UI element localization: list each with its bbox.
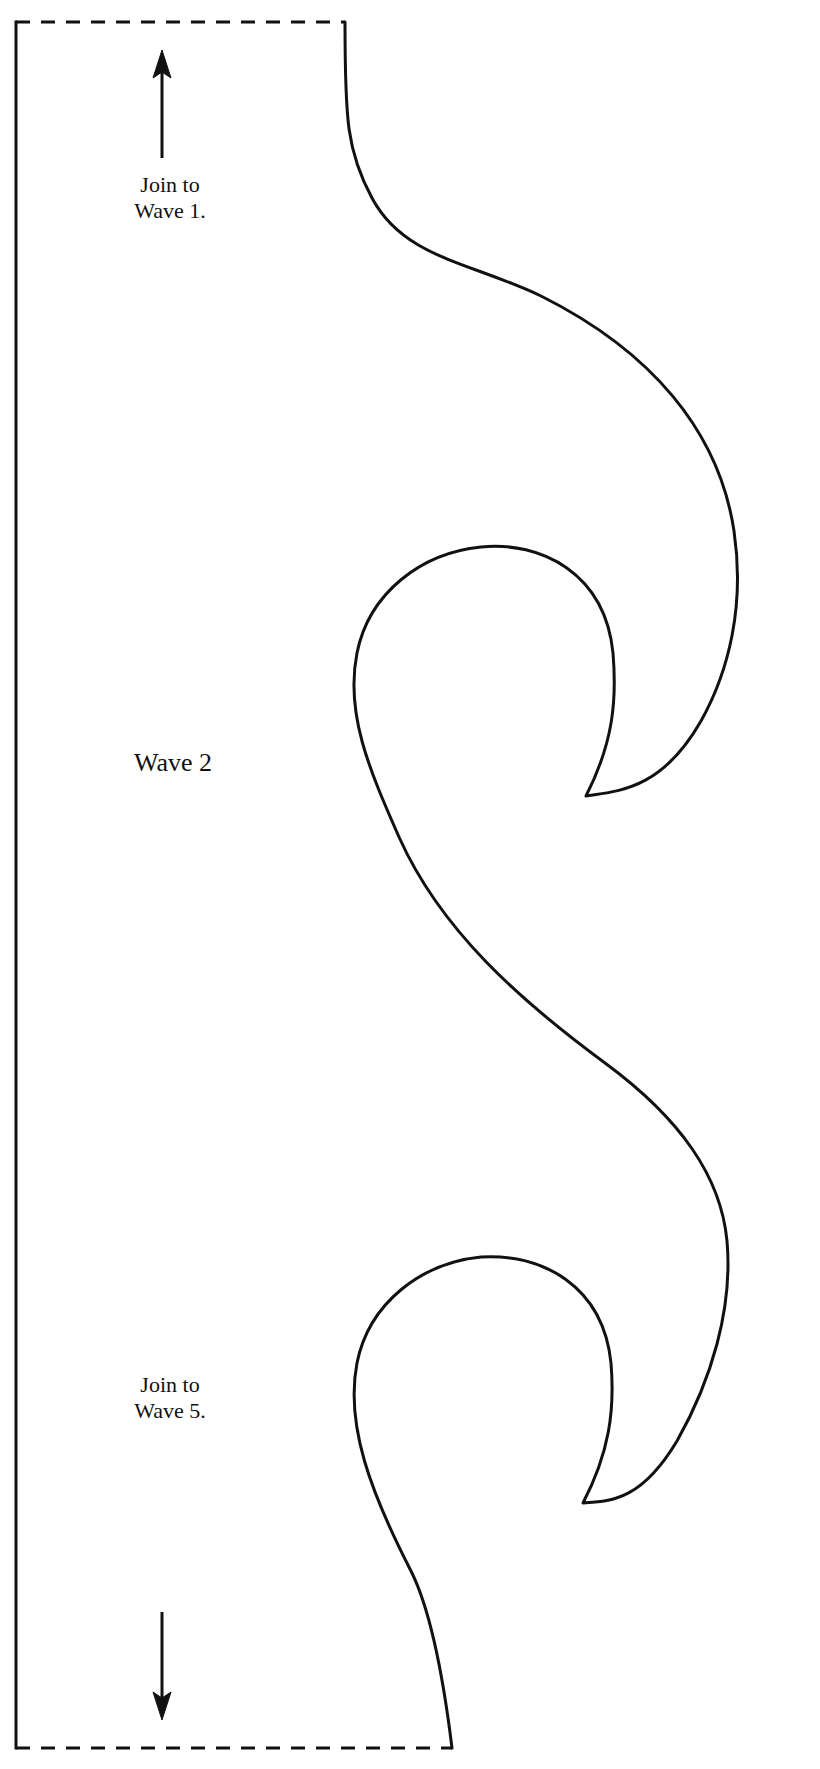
- pattern-sheet: Join to Wave 1. Wave 2 Join to Wave 5.: [0, 0, 820, 1769]
- arrow-up-icon: [153, 50, 171, 158]
- join-to-wave-5-label: Join to Wave 5.: [60, 1372, 280, 1424]
- wave-pattern-drawing: [0, 0, 820, 1769]
- wave-outline-path: [345, 22, 738, 1748]
- arrow-down-icon: [153, 1612, 171, 1720]
- wave-name-label: Wave 2: [58, 748, 288, 779]
- join-to-wave-1-label: Join to Wave 1.: [60, 172, 280, 224]
